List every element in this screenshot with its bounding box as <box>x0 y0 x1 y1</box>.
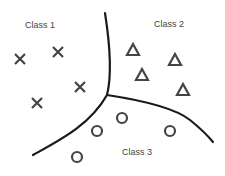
triangle-marker-icon <box>127 44 139 55</box>
boundary-1-2 <box>105 13 110 95</box>
circle-marker-icon <box>117 113 127 123</box>
triangle-marker-icon <box>136 69 148 80</box>
label-class-1: Class 1 <box>25 20 55 30</box>
cross-marker-icon <box>53 47 63 57</box>
cross-marker-icon <box>75 82 85 92</box>
circle-marker-icon <box>92 126 102 136</box>
label-class-2: Class 2 <box>154 19 184 29</box>
circle-marker-icon <box>72 152 82 162</box>
decision-boundaries <box>33 13 213 155</box>
boundary-2-3 <box>107 95 213 142</box>
cross-marker-icon <box>15 54 25 64</box>
label-class-3: Class 3 <box>122 147 152 157</box>
circle-marker-icon <box>165 126 175 136</box>
triangle-marker-icon <box>169 54 181 65</box>
decision-boundary-diagram: Class 1 Class 2 Class 3 <box>0 0 225 176</box>
cross-marker-icon <box>32 98 42 108</box>
triangle-marker-icon <box>177 84 189 95</box>
